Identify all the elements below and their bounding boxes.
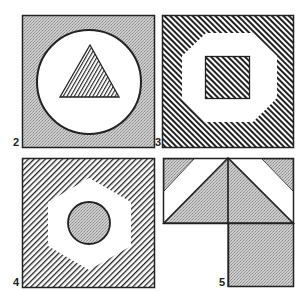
panel-3 <box>163 16 294 148</box>
panel-2-label: 2 <box>13 137 19 148</box>
panel-3-label: 3 <box>155 137 161 148</box>
panel-2 <box>23 16 155 148</box>
panel-5-label: 5 <box>219 277 225 288</box>
panel-5-bottom-square <box>229 224 294 287</box>
panel-3-inner-square <box>206 57 250 99</box>
panel-5 <box>164 158 294 287</box>
figure-canvas <box>0 0 307 291</box>
panel-4-circle <box>68 202 110 244</box>
panel-4 <box>23 159 155 288</box>
panel-4-label: 4 <box>13 277 19 288</box>
